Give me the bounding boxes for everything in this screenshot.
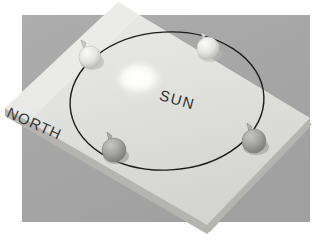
globe-bottom-right-sphere	[242, 129, 266, 153]
globe-top-right-sphere	[197, 37, 219, 59]
globe-bottom-left-sphere	[102, 138, 126, 162]
sun-disc	[118, 64, 162, 96]
photo-scene: NORTH SUN	[0, 0, 332, 242]
globe-top-left-sphere	[79, 46, 101, 68]
